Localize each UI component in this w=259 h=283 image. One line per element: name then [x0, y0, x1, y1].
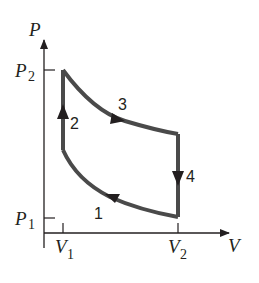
process-label-2: 2 [70, 115, 79, 132]
svg-text:P: P [14, 60, 27, 81]
process-label-3: 3 [118, 96, 127, 113]
svg-text:1: 1 [67, 247, 74, 262]
pv-diagram: P V P 2 P 1 V 1 V 2 2 3 4 1 [0, 0, 259, 283]
svg-text:1: 1 [28, 217, 35, 232]
arrow-up-icon [57, 104, 69, 119]
cycle [57, 70, 184, 217]
tick-label-p1: P 1 [14, 208, 35, 232]
process-label-4: 4 [186, 168, 195, 185]
tick-label-v2: V 2 [168, 236, 187, 262]
process-label-1: 1 [94, 205, 103, 222]
tick-label-v1: V 1 [55, 236, 74, 262]
axes [44, 40, 229, 248]
tick-label-p2: P 2 [14, 60, 35, 84]
arrow-down-icon [172, 171, 184, 186]
y-axis-label: P [28, 19, 41, 40]
svg-text:2: 2 [28, 69, 35, 84]
svg-text:2: 2 [180, 247, 187, 262]
svg-text:P: P [14, 208, 27, 229]
process-1-curve [63, 150, 178, 217]
x-axis-label: V [228, 235, 242, 256]
